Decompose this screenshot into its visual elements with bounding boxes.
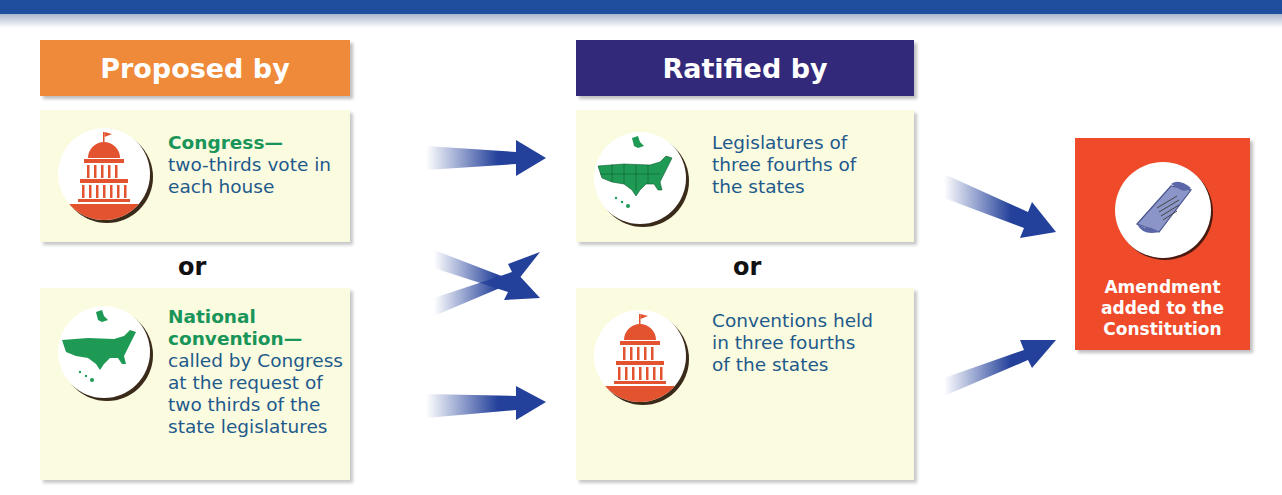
text-line: state legislatures bbox=[168, 416, 327, 437]
result-line: Amendment bbox=[1104, 277, 1220, 297]
legislatures-description: Legislatures of three fourths of the sta… bbox=[712, 132, 908, 198]
capitol-building-icon bbox=[594, 310, 686, 402]
amendment-result-box: Amendment added to the Constitution bbox=[1075, 138, 1250, 350]
arrow-convention-to-conventions bbox=[426, 382, 556, 432]
text-line: Conventions held bbox=[712, 310, 873, 331]
scroll-document-icon bbox=[1115, 162, 1211, 258]
us-states-map-icon bbox=[594, 132, 686, 224]
ratified-by-label: Ratified by bbox=[662, 53, 827, 84]
congress-description: Congress— two-thirds vote in each house bbox=[168, 132, 346, 198]
text-line: in three fourths bbox=[712, 332, 855, 353]
or-separator: or bbox=[733, 253, 761, 281]
result-line: added to the bbox=[1101, 298, 1224, 318]
text-line: of the states bbox=[712, 354, 828, 375]
text-line: three fourths of bbox=[712, 154, 856, 175]
text-line: Legislatures of bbox=[712, 132, 847, 153]
capitol-building-icon bbox=[58, 128, 150, 220]
text-line: at the request of bbox=[168, 372, 323, 393]
convention-description: National convention— called by Congress … bbox=[168, 306, 348, 438]
title-banner bbox=[0, 0, 1282, 14]
proposed-by-label: Proposed by bbox=[100, 53, 290, 84]
ratified-by-header: Ratified by bbox=[576, 40, 914, 96]
text-line: the states bbox=[712, 176, 805, 197]
arrow-congress-to-legislatures bbox=[426, 134, 556, 184]
text-line: two thirds of the bbox=[168, 394, 320, 415]
proposed-by-header: Proposed by bbox=[40, 40, 350, 96]
amendment-label: Amendment added to the Constitution bbox=[1075, 277, 1250, 340]
ratification-legislatures-card: Legislatures of three fourths of the sta… bbox=[576, 110, 914, 242]
banner-fade bbox=[0, 14, 1282, 28]
congress-lead: Congress— bbox=[168, 132, 346, 154]
text-line: two-thirds vote in bbox=[168, 154, 331, 175]
text-line: called by Congress bbox=[168, 350, 343, 371]
proposal-congress-card: Congress— two-thirds vote in each house bbox=[40, 110, 350, 242]
convention-lead: convention— bbox=[168, 328, 348, 350]
arrow-legislatures-to-amendment bbox=[944, 168, 1074, 248]
arrow-convention-to-legislatures bbox=[434, 246, 554, 306]
proposal-convention-card: National convention— called by Congress … bbox=[40, 288, 350, 480]
text-line: each house bbox=[168, 176, 274, 197]
result-line: Constitution bbox=[1103, 319, 1221, 339]
ratification-conventions-card: Conventions held in three fourths of the… bbox=[576, 288, 914, 480]
conventions-description: Conventions held in three fourths of the… bbox=[712, 310, 908, 376]
convention-lead: National bbox=[168, 306, 348, 328]
us-map-icon bbox=[58, 306, 150, 398]
arrow-conventions-to-amendment bbox=[944, 318, 1074, 398]
or-separator: or bbox=[178, 253, 206, 281]
